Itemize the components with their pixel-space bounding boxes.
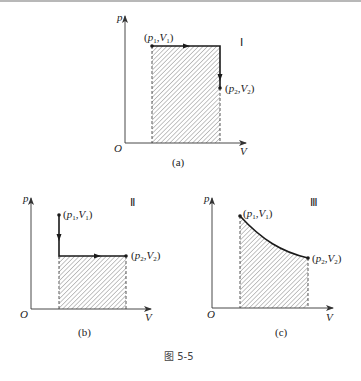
point-2-label-c: (p2,V2)	[312, 252, 342, 266]
p-axis-label-b: p	[22, 192, 29, 204]
point-1-label-a: (p1,V1)	[144, 31, 174, 45]
p-axis-label-c: p	[203, 192, 210, 204]
point-1-label-b: (p1,V1)	[63, 208, 93, 222]
point-1-c	[238, 214, 242, 218]
origin-label-c: O	[207, 308, 215, 320]
roman-numeral-c: Ⅲ	[310, 196, 318, 208]
v-axis-label-c: V	[326, 311, 334, 323]
panel-b: p V O (p1,V1) (p2,V2) Ⅱ (b)	[20, 192, 161, 339]
panel-c: p V O (p1,V1) (p2,V2) Ⅲ (c)	[203, 192, 342, 339]
point-1-label-c: (p1,V1)	[243, 207, 273, 221]
process-path-b	[59, 215, 126, 256]
origin-label-b: O	[20, 308, 28, 320]
p-axis-label-a: p	[116, 11, 123, 23]
point-2-label-a: (p2,V2)	[225, 82, 255, 96]
work-area-b	[59, 256, 126, 309]
work-area-c	[240, 216, 308, 308]
caption-b: (b)	[78, 326, 91, 339]
point-1-b	[57, 213, 61, 217]
caption-a: (a)	[172, 156, 185, 169]
point-2-b	[124, 254, 128, 258]
arrow-down-icon	[57, 234, 62, 241]
v-axis-label-a: V	[240, 145, 248, 157]
point-2-label-b: (p2,V2)	[131, 249, 161, 263]
point-2-a	[218, 86, 222, 90]
roman-numeral-a: Ⅰ	[240, 36, 243, 48]
roman-numeral-b: Ⅱ	[130, 196, 135, 208]
v-axis-label-b: V	[145, 311, 153, 323]
origin-label-a: O	[114, 142, 122, 154]
caption-c: (c)	[275, 326, 288, 339]
point-2-c	[306, 256, 310, 260]
work-area-a	[152, 46, 220, 143]
panel-a: p V O (p1,V1) (p2,V2) Ⅰ (a)	[114, 11, 255, 169]
pv-diagram-figure: p V O (p1,V1) (p2,V2) Ⅰ (a) p V O (p1,V1…	[0, 0, 361, 381]
figure-title: 图 5-5	[164, 351, 194, 362]
